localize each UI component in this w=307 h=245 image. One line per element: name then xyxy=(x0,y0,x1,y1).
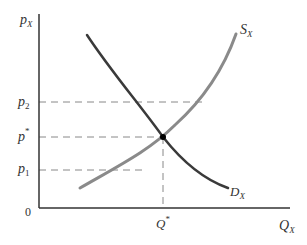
p2-label: p2 xyxy=(17,94,30,111)
qstar-label: Q* xyxy=(156,214,170,231)
y-axis-label: pX xyxy=(19,12,33,29)
demand-curve xyxy=(87,35,228,188)
supply-demand-diagram: pX p2 p* p1 0 Q* QX SX DX xyxy=(0,0,307,245)
equilibrium-point xyxy=(160,134,166,140)
p1-label: p1 xyxy=(17,161,30,178)
x-axis-label: QX xyxy=(279,218,295,235)
pstar-label: p* xyxy=(17,126,30,144)
demand-label: DX xyxy=(229,184,245,201)
supply-label: SX xyxy=(240,22,253,39)
origin-label: 0 xyxy=(25,205,31,219)
